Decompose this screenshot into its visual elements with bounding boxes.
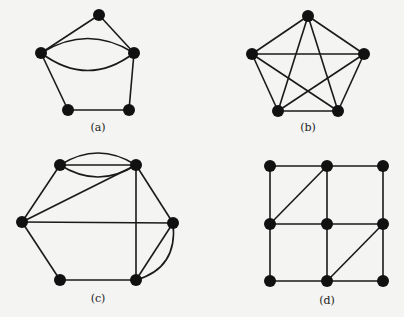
edge (22, 165, 60, 222)
edge (270, 166, 327, 224)
graph-c (16, 153, 179, 286)
edge (252, 16, 308, 54)
curved-edge (41, 39, 134, 54)
curved-edge (41, 53, 134, 71)
vertex (54, 159, 66, 171)
edge (99, 15, 134, 53)
vertex (321, 160, 333, 172)
vertex (54, 274, 66, 286)
caption-d: (d) (319, 294, 335, 307)
edge (22, 222, 60, 280)
vertex (321, 218, 333, 230)
vertex (93, 9, 105, 21)
curved-edge (60, 153, 136, 165)
vertex (321, 275, 333, 287)
vertex (167, 217, 179, 229)
caption-a: (a) (90, 121, 105, 134)
vertex (377, 160, 389, 172)
edge (129, 53, 134, 110)
edge (278, 16, 308, 111)
vertex (358, 48, 370, 60)
vertex (264, 218, 276, 230)
vertex (130, 274, 142, 286)
curved-edge (60, 165, 136, 177)
edge (136, 165, 173, 223)
vertex (62, 104, 74, 116)
vertex (272, 105, 284, 117)
edge (308, 16, 338, 111)
graph-d (264, 160, 389, 287)
edge (327, 224, 383, 281)
graph-b (246, 10, 370, 117)
vertex (128, 47, 140, 59)
vertex (377, 218, 389, 230)
vertex (123, 104, 135, 116)
vertex (264, 275, 276, 287)
caption-c: (c) (91, 292, 106, 305)
vertex (16, 216, 28, 228)
vertex (246, 48, 258, 60)
caption-b: (b) (300, 121, 316, 134)
edge (308, 16, 364, 54)
vertex (377, 275, 389, 287)
vertex (332, 105, 344, 117)
vertex (302, 10, 314, 22)
vertex (264, 160, 276, 172)
graph-a (35, 9, 140, 116)
vertex (130, 159, 142, 171)
edge (22, 222, 173, 223)
vertex (35, 47, 47, 59)
graph-figure-canvas: (a) (b) (c) (d) (0, 0, 404, 317)
